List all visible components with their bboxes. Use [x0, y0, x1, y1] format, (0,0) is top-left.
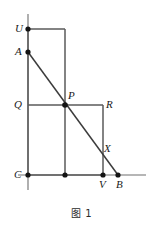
label-point-x: X: [104, 143, 111, 154]
label-point-b: B: [116, 179, 123, 190]
label-point-a: A: [15, 46, 22, 57]
label-point-v: V: [99, 179, 106, 190]
point-u: [25, 26, 30, 31]
figure-caption: 图 1: [0, 205, 163, 220]
point-p: [62, 102, 68, 108]
point-m: [62, 172, 67, 177]
point-c: [25, 172, 30, 177]
geometry-diagram: [0, 0, 163, 233]
upper-rectangle-group: [28, 29, 65, 175]
point-v: [100, 172, 105, 177]
diagonal-a-b: [28, 52, 118, 175]
label-point-r: R: [106, 99, 113, 110]
label-point-u: U: [15, 23, 23, 34]
point-b: [115, 172, 120, 177]
label-point-c: C: [14, 169, 21, 180]
label-point-q: Q: [14, 99, 22, 110]
figure-container: U A Q P R X C V B 图 1: [0, 0, 163, 233]
point-a: [25, 49, 30, 54]
label-point-p: P: [68, 90, 75, 101]
axes-group: [18, 14, 146, 190]
